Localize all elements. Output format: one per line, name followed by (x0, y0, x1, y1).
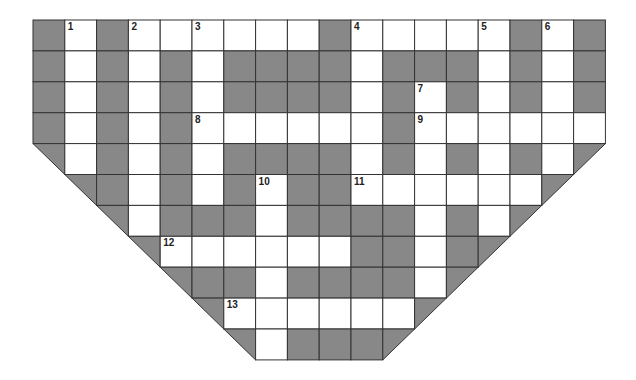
block-cell (383, 82, 415, 113)
crossword-cell[interactable] (319, 298, 351, 329)
crossword-cell[interactable] (160, 20, 192, 51)
crossword-cell[interactable] (256, 298, 288, 329)
crossword-cell[interactable] (383, 175, 415, 206)
crossword-cell[interactable] (415, 20, 447, 51)
crossword-cell[interactable] (256, 267, 288, 298)
crossword-cell[interactable] (287, 113, 319, 144)
crossword-cell[interactable] (65, 113, 97, 144)
edge-block-right (510, 205, 542, 236)
crossword-cell[interactable] (478, 175, 510, 206)
block-cell (33, 82, 65, 113)
crossword-cell[interactable] (542, 144, 574, 175)
block-cell (97, 144, 129, 175)
crossword-cell[interactable] (287, 236, 319, 267)
crossword-cell[interactable] (351, 144, 383, 175)
block-cell (97, 82, 129, 113)
block-cell (160, 144, 192, 175)
block-cell (224, 175, 256, 206)
crossword-cell[interactable] (510, 113, 542, 144)
crossword-cell[interactable] (256, 329, 288, 360)
crossword-cell[interactable] (478, 113, 510, 144)
clue-number: 8 (195, 114, 201, 125)
crossword-cell[interactable] (256, 236, 288, 267)
clue-number: 6 (545, 21, 551, 32)
crossword-cell[interactable] (128, 113, 160, 144)
crossword-cell[interactable] (256, 113, 288, 144)
clue-number: 9 (418, 114, 424, 125)
crossword-cell[interactable] (192, 175, 224, 206)
clue-number: 7 (418, 83, 424, 94)
block-cell (351, 329, 383, 360)
edge-block-left (224, 329, 256, 360)
block-cell (97, 20, 129, 51)
edge-block-left (128, 236, 160, 267)
block-cell (287, 175, 319, 206)
block-cell (446, 82, 478, 113)
crossword-cell[interactable] (446, 175, 478, 206)
crossword-cell[interactable] (478, 205, 510, 236)
crossword-cell[interactable] (542, 82, 574, 113)
crossword-cell[interactable] (351, 82, 383, 113)
crossword-cell[interactable] (128, 205, 160, 236)
crossword-cell[interactable] (224, 20, 256, 51)
crossword-cell[interactable] (319, 113, 351, 144)
block-cell (446, 205, 478, 236)
crossword-cell[interactable] (256, 20, 288, 51)
crossword-cell[interactable] (351, 298, 383, 329)
crossword-cell[interactable] (415, 205, 447, 236)
crossword-cell[interactable] (65, 144, 97, 175)
crossword-cell[interactable] (287, 298, 319, 329)
crossword-cell[interactable] (128, 82, 160, 113)
clue-number: 1 (68, 21, 74, 32)
crossword-cell[interactable] (415, 175, 447, 206)
crossword-cell[interactable] (128, 144, 160, 175)
crossword-cell[interactable] (478, 144, 510, 175)
block-cell (287, 51, 319, 82)
clue-number: 10 (259, 176, 271, 187)
edge-block-right (478, 236, 510, 267)
crossword-cell[interactable] (574, 113, 606, 144)
block-cell (192, 205, 224, 236)
block-cell (256, 51, 288, 82)
crossword-cell[interactable] (446, 113, 478, 144)
crossword-cell[interactable] (192, 82, 224, 113)
crossword-cell[interactable] (510, 175, 542, 206)
crossword-cell[interactable] (383, 298, 415, 329)
block-cell (319, 20, 351, 51)
crossword-cell[interactable] (256, 205, 288, 236)
crossword-cell[interactable] (415, 236, 447, 267)
crossword-cell[interactable] (351, 113, 383, 144)
crossword-cell[interactable] (478, 82, 510, 113)
crossword-cell[interactable] (192, 51, 224, 82)
block-cell (160, 82, 192, 113)
crossword-cell[interactable] (478, 51, 510, 82)
crossword-cell[interactable] (542, 51, 574, 82)
block-cell (33, 20, 65, 51)
crossword-cell[interactable] (65, 51, 97, 82)
crossword-cell[interactable] (224, 113, 256, 144)
block-cell (192, 267, 224, 298)
crossword-cell[interactable] (415, 144, 447, 175)
crossword-cell[interactable] (192, 236, 224, 267)
block-cell (319, 175, 351, 206)
crossword-cell[interactable] (128, 175, 160, 206)
block-cell (351, 205, 383, 236)
crossword-cell[interactable] (287, 20, 319, 51)
block-cell (224, 51, 256, 82)
block-cell (415, 51, 447, 82)
crossword-cell[interactable] (65, 82, 97, 113)
crossword-cell[interactable] (383, 20, 415, 51)
crossword-cell[interactable] (542, 113, 574, 144)
crossword-cell[interactable] (351, 51, 383, 82)
crossword-cell[interactable] (128, 51, 160, 82)
crossword-cell[interactable] (192, 144, 224, 175)
block-cell (224, 267, 256, 298)
crossword-cell[interactable] (224, 236, 256, 267)
crossword-cell[interactable] (319, 236, 351, 267)
crossword-cell[interactable] (446, 20, 478, 51)
block-cell (97, 51, 129, 82)
crossword-cell[interactable] (415, 267, 447, 298)
block-cell (383, 267, 415, 298)
crossword-grid: 12345678910111213 (0, 0, 636, 380)
block-cell (446, 236, 478, 267)
